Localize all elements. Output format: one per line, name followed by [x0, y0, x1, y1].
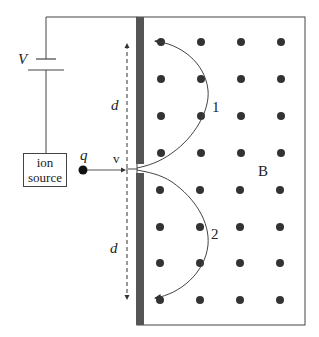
- battery-icon: [28, 59, 64, 70]
- charge-label: q: [80, 148, 88, 163]
- plate-lower: [136, 173, 144, 325]
- path-2-label: 2: [211, 227, 219, 242]
- circuit-wire: [46, 17, 137, 153]
- distance-label-top: d: [111, 98, 119, 113]
- velocity-label: v: [113, 152, 120, 165]
- trajectory-1: [137, 41, 208, 168]
- field-label: B: [258, 164, 268, 179]
- ion-source-label-2: source: [28, 170, 62, 185]
- plate-upper: [136, 17, 144, 164]
- ion-source-label-1: ion: [37, 155, 54, 170]
- path-1-label: 1: [212, 100, 220, 115]
- distance-label-bottom: d: [110, 241, 118, 256]
- ion-source-box: ion source: [23, 153, 67, 187]
- magnetic-field-region: [137, 17, 305, 325]
- charge-particle: [79, 166, 88, 175]
- voltage-label: V: [18, 52, 27, 67]
